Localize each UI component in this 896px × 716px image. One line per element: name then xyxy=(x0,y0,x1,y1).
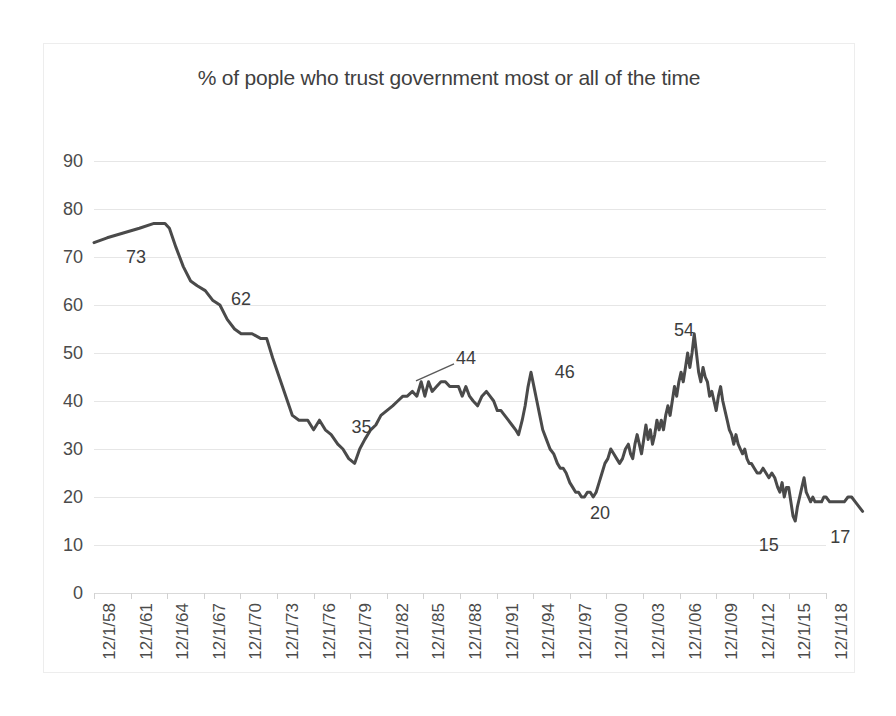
x-axis-label: 12/1/76 xyxy=(320,603,340,660)
data-label-46: 46 xyxy=(555,362,575,383)
annotation-leader-line xyxy=(416,364,454,381)
x-axis-tickmark xyxy=(643,593,644,599)
x-axis-label: 12/1/06 xyxy=(686,603,706,660)
x-axis-tickmark xyxy=(167,593,168,599)
x-axis-label: 12/1/79 xyxy=(356,603,376,660)
x-axis-tickmark xyxy=(716,593,717,599)
y-axis-label: 80 xyxy=(63,199,83,220)
x-axis-tickmark xyxy=(533,593,534,599)
x-axis-label: 12/1/12 xyxy=(759,603,779,660)
x-axis-label: 12/1/15 xyxy=(795,603,815,660)
x-axis-label: 12/1/58 xyxy=(100,603,120,660)
x-axis-tickmark xyxy=(350,593,351,599)
x-axis-tickmark xyxy=(753,593,754,599)
x-axis-label: 12/1/73 xyxy=(283,603,303,660)
y-axis-label: 20 xyxy=(63,487,83,508)
chart-title: % of pople who trust government most or … xyxy=(104,62,794,93)
data-label-35: 35 xyxy=(352,417,372,438)
y-axis-label: 30 xyxy=(63,439,83,460)
series-svg xyxy=(94,161,826,593)
plot-area: 0102030405060708090 12/1/5812/1/6112/1/6… xyxy=(94,161,826,593)
x-axis-tickmark xyxy=(277,593,278,599)
x-axis-label: 12/1/94 xyxy=(539,603,559,660)
y-axis-label: 40 xyxy=(63,391,83,412)
x-axis-tickmark xyxy=(606,593,607,599)
y-axis-label: 50 xyxy=(63,343,83,364)
y-axis-label: 90 xyxy=(63,151,83,172)
x-axis-tickmark xyxy=(131,593,132,599)
x-axis-tickmark xyxy=(570,593,571,599)
x-axis-label: 12/1/97 xyxy=(576,603,596,660)
data-label-15: 15 xyxy=(759,535,779,556)
x-axis-tickmark xyxy=(789,593,790,599)
data-label-17: 17 xyxy=(830,527,850,548)
x-axis-label: 12/1/88 xyxy=(466,603,486,660)
x-axis-label: 12/1/91 xyxy=(503,603,523,660)
data-label-44: 44 xyxy=(456,348,476,369)
x-axis-tickmark xyxy=(826,593,827,599)
x-axis-tickmark xyxy=(497,593,498,599)
x-axis-label: 12/1/64 xyxy=(173,603,193,660)
x-axis-tickmark xyxy=(204,593,205,599)
x-axis-tickmark xyxy=(94,593,95,599)
data-label-54: 54 xyxy=(674,320,694,341)
y-axis-label: 0 xyxy=(73,583,83,604)
x-axis-tickmark xyxy=(423,593,424,599)
data-label-20: 20 xyxy=(590,503,610,524)
x-axis-tickmark xyxy=(460,593,461,599)
x-axis-tickmark xyxy=(387,593,388,599)
x-axis-label: 12/1/61 xyxy=(137,603,157,660)
data-label-73: 73 xyxy=(126,247,146,268)
x-axis-label: 12/1/09 xyxy=(722,603,742,660)
data-label-62: 62 xyxy=(231,289,251,310)
y-axis-label: 10 xyxy=(63,535,83,556)
x-axis-label: 12/1/82 xyxy=(393,603,413,660)
chart-card: % of pople who trust government most or … xyxy=(43,43,855,673)
x-axis-label: 12/1/67 xyxy=(210,603,230,660)
y-axis-label: 70 xyxy=(63,247,83,268)
x-axis-tickmark xyxy=(314,593,315,599)
x-axis-label: 12/1/00 xyxy=(612,603,632,660)
y-axis-label: 60 xyxy=(63,295,83,316)
x-axis-tickmark xyxy=(680,593,681,599)
x-axis-label: 12/1/85 xyxy=(429,603,449,660)
x-axis-label: 12/1/03 xyxy=(649,603,669,660)
trust-line-series xyxy=(94,223,863,521)
x-axis-label: 12/1/70 xyxy=(246,603,266,660)
x-axis-label: 12/1/18 xyxy=(832,603,852,660)
x-axis-tickmark xyxy=(240,593,241,599)
